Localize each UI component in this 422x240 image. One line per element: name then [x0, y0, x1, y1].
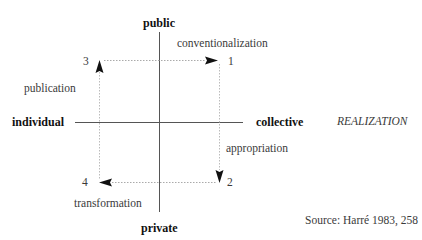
arrow-down-icon — [216, 170, 224, 183]
transition-transformation: transformation — [74, 198, 142, 210]
axis-label-private: private — [141, 222, 178, 234]
corner-number-4: 4 — [82, 177, 88, 189]
transition-conventionalization: conventionalization — [177, 38, 268, 50]
corner-number-3: 3 — [83, 56, 89, 68]
source-citation: Source: Harré 1983, 258 — [305, 215, 418, 227]
arrow-up-icon — [96, 60, 104, 73]
arrow-right-icon — [205, 57, 218, 65]
transition-appropriation: appropriation — [226, 143, 288, 155]
realization-label: REALIZATION — [337, 116, 408, 128]
transition-publication: publication — [24, 83, 76, 95]
axis-label-public: public — [143, 17, 175, 29]
axis-label-individual: individual — [12, 116, 64, 128]
corner-number-1: 1 — [228, 56, 234, 68]
arrow-left-icon — [99, 179, 112, 187]
corner-number-2: 2 — [227, 177, 233, 189]
axis-label-collective: collective — [256, 116, 303, 128]
